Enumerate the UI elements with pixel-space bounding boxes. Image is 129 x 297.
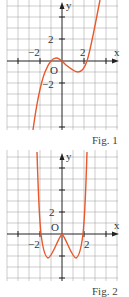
fig1-y-arrow-icon (60, 2, 65, 9)
fig1-cubic-curve (33, 0, 100, 130)
fig1-x-arrow-icon (112, 59, 119, 64)
fig1-origin-label: O (50, 64, 58, 76)
fig1-caption: Fig. 1 (92, 134, 118, 146)
figure-2: y x 2 −2 2 O Fig. 2 (7, 150, 120, 297)
fig2-origin-label: O (51, 221, 59, 233)
fig1-y-tick-2: 2 (48, 33, 54, 45)
fig1-y-tick-neg2: −2 (42, 78, 54, 90)
fig1-y-label: y (66, 0, 72, 11)
fig2-y-label: y (66, 150, 72, 162)
fig1-x-tick-2: 2 (80, 46, 86, 58)
figures-canvas: y x 2 −2 −2 2 O Fig. 1 (0, 0, 129, 297)
fig2-x-arrow-icon (112, 232, 119, 237)
figure-1: y x 2 −2 −2 2 O Fig. 1 (7, 0, 120, 146)
fig2-y-arrow-icon (60, 153, 65, 160)
fig2-caption: Fig. 2 (92, 285, 118, 297)
fig1-x-label: x (114, 46, 120, 58)
fig2-x-tick-neg2: −2 (28, 238, 40, 250)
fig1-x-tick-neg2: −2 (28, 46, 40, 58)
fig2-y-tick-2: 2 (49, 206, 55, 218)
fig2-x-label: x (114, 219, 120, 231)
fig2-x-tick-2: 2 (84, 238, 90, 250)
